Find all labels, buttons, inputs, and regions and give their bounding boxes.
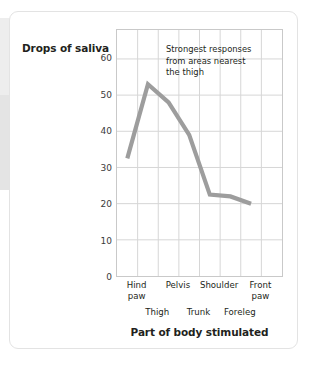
annotation-line-3: the thigh <box>166 67 278 79</box>
y-axis-tick-labels: 0 10 20 30 40 50 60 <box>80 29 112 277</box>
y-tick-60: 60 <box>82 53 112 63</box>
y-tick-0: 0 <box>82 272 112 282</box>
x-label-thigh-text: Thigh <box>145 307 169 318</box>
x-label-trunk: Trunk <box>187 307 210 318</box>
y-tick-50: 50 <box>82 90 112 100</box>
y-tick-10: 10 <box>82 236 112 246</box>
annotation-line-1: Strongest responses <box>166 44 278 56</box>
y-tick-30: 30 <box>82 163 112 173</box>
x-label-pelvis-text: Pelvis <box>166 280 191 291</box>
x-label-foreleg: Foreleg <box>224 307 256 318</box>
x-label-hind-paw: Hind paw <box>127 280 147 301</box>
annotation-strongest-responses: Strongest responses from areas nearest t… <box>166 44 278 79</box>
x-axis-title: Part of body stimulated <box>116 326 283 338</box>
x-label-shoulder-text: Shoulder <box>200 280 238 291</box>
x-label-pelvis: Pelvis <box>166 280 191 291</box>
y-tick-20: 20 <box>82 199 112 209</box>
x-label-thigh: Thigh <box>145 307 169 318</box>
x-axis-labels-lower-row: Thigh Trunk Foreleg <box>116 307 283 321</box>
annotation-line-2: from areas nearest <box>166 56 278 68</box>
x-label-shoulder: Shoulder <box>200 280 238 291</box>
x-label-foreleg-text: Foreleg <box>224 307 256 318</box>
x-axis-labels-upper-row: Hind paw Pelvis Shoulder Front paw <box>116 280 283 306</box>
x-label-front-paw-line2: paw <box>250 291 272 302</box>
y-tick-40: 40 <box>82 126 112 136</box>
x-label-hind-paw-line2: paw <box>127 291 147 302</box>
x-label-front-paw-line1: Front <box>250 280 272 291</box>
x-label-trunk-text: Trunk <box>187 307 210 318</box>
x-label-hind-paw-line1: Hind <box>127 280 147 291</box>
x-label-front-paw: Front paw <box>250 280 272 301</box>
